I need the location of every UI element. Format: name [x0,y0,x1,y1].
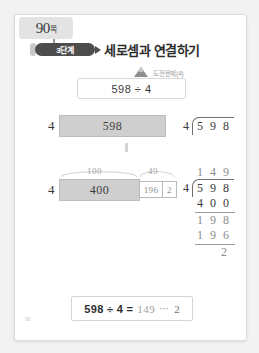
step-badge: 3단계 [35,43,95,56]
connector-tick [125,143,128,152]
answer-dots: ⋯ [159,303,170,314]
ld-step2: 1 9 8 [197,213,231,228]
row2-cell-196: 196 [139,181,163,198]
ld-simple-dividend: 5 9 8 [197,119,231,134]
ld-simple-divisor: 4 [183,119,189,134]
row2-cell-196-value: 196 [144,185,158,195]
row1-bar-value: 598 [103,119,123,134]
long-division-simple: 4 5 9 8 [183,115,245,141]
worksheet-page: 90쪽 3단계 세로셈과 연결하기 도전문제(4) 598 ÷ 4 4 598 [14,14,247,341]
challenge-label: 도전문제(4) [153,68,184,78]
row2-product-bar: 400 [59,179,140,201]
row2-cell-remainder-value: 2 [167,185,172,195]
mountain-icon [133,67,149,78]
row2-bar-value: 400 [90,183,110,198]
answer-remainder: 2 [174,303,180,315]
long-division-work: 1 4 9 4 5 9 8 4 0 0 1 9 8 1 9 6 2 [183,165,245,255]
ld-step3: 1 9 6 [197,228,231,243]
answer-expression: 598 ÷ 4 = [84,303,133,315]
answer-quotient: 149 [137,303,155,315]
challenge-block: 도전문제(4) 598 ÷ 4 [15,67,246,101]
ld-dividend: 5 9 8 [197,181,231,196]
row2-cell-remainder: 2 [162,181,177,198]
ld-step1: 4 0 0 [197,196,231,211]
triangle-right-icon [95,46,101,54]
step-badge-label: 3단계 [56,44,74,55]
ld-quotient: 1 4 9 [197,165,231,180]
brace-left-label: 100 [87,166,102,176]
expression-text: 598 ÷ 4 [111,83,151,95]
ld-divisor: 4 [183,181,189,196]
row1-divisor: 4 [48,118,55,134]
brace-right-label: 49 [148,166,158,176]
answer-box: 598 ÷ 4 = 149 ⋯ 2 [71,296,193,321]
expression-box: 598 ÷ 4 [77,78,186,99]
ld-rule-2 [195,244,235,245]
section-header: 3단계 세로셈과 연결하기 [15,35,246,63]
row1-dividend-bar: 598 [59,115,166,137]
footer-page-number: 90 [25,316,31,322]
ld-remainder: 2 [221,245,229,260]
row2-divisor: 4 [48,182,55,198]
page-title: 세로셈과 연결하기 [104,40,200,59]
page-tab-label: 90쪽 [19,17,73,39]
page-number-tab: 90쪽 [19,17,73,39]
